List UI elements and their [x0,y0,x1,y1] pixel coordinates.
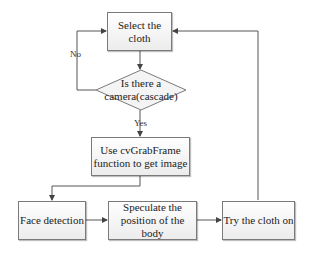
face-detection-node: Face detection [18,201,86,240]
node-text: cloth [128,32,150,44]
decision-node-text: Is there acamera(cascade) [96,77,186,103]
node-text: Use cvGrabFrame [100,144,180,156]
node-text: position of the body [121,214,185,239]
node-text: camera(cascade) [104,90,177,102]
try-cloth-node: Try the cloth on [222,201,295,240]
node-text: Face detection [20,214,84,227]
yes-label: Yes [134,118,147,128]
speculate-body-node: Speculate theposition of the body [108,201,197,240]
node-text: Select the [118,19,161,31]
node-text: function to get image [94,157,188,169]
node-text: Try the cloth on [223,214,293,227]
select-cloth-node: Select thecloth [107,12,172,51]
grab-frame-node: Use cvGrabFramefunction to get image [91,137,190,176]
no-label: No [70,49,81,59]
node-text: Speculate the [123,201,182,213]
node-text: Is there a [121,77,161,89]
